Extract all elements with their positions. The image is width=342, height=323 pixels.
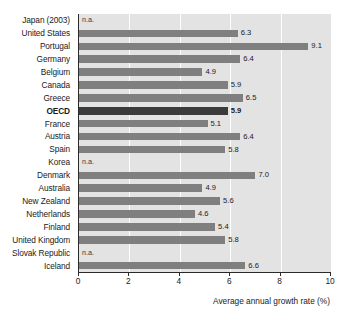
- category-label: United Kingdom: [0, 233, 74, 246]
- bar-row: n.a.: [79, 246, 331, 259]
- bar-value-label: 5.9: [231, 81, 242, 89]
- bar-value-label: 9.1: [311, 42, 322, 50]
- x-tick-label: 10: [325, 277, 334, 285]
- bar-rows: n.a.6.39.16.44.95.96.55.95.16.45.8n.a.7.…: [79, 14, 331, 272]
- bar-row: 5.8: [79, 143, 331, 156]
- bar-row: 5.9: [79, 79, 331, 92]
- not-available-label: n.a.: [82, 159, 94, 166]
- bar-row: 6.5: [79, 91, 331, 104]
- x-tick-mark: [330, 272, 331, 276]
- x-axis-title: Average annual growth rate (%): [213, 297, 330, 305]
- bar-value-label: 4.9: [205, 68, 216, 76]
- x-tick-label: 0: [76, 277, 81, 285]
- category-label: Greece: [0, 91, 74, 104]
- category-label: Portugal: [0, 40, 74, 53]
- bar: 6.3: [79, 30, 238, 38]
- bar-row: 4.6: [79, 208, 331, 221]
- category-label: Denmark: [0, 169, 74, 182]
- bar: 4.9: [79, 68, 202, 76]
- bar-value-label: 6.6: [248, 262, 259, 270]
- bar-row: 6.4: [79, 53, 331, 66]
- bar: 4.9: [79, 184, 202, 192]
- category-label: Germany: [0, 53, 74, 66]
- bar-row: 6.6: [79, 259, 331, 272]
- bar-value-label: 4.6: [198, 210, 209, 218]
- x-tick-label: 8: [277, 277, 282, 285]
- bar-value-label: 4.9: [205, 184, 216, 192]
- bar-value-label: 5.8: [228, 146, 239, 154]
- category-label: Finland: [0, 221, 74, 234]
- x-tick-mark: [280, 272, 281, 276]
- x-tick-mark: [128, 272, 129, 276]
- category-label: Spain: [0, 143, 74, 156]
- x-tick-mark: [229, 272, 230, 276]
- bar: 6.4: [79, 55, 240, 63]
- plot-area: n.a.6.39.16.44.95.96.55.95.16.45.8n.a.7.…: [78, 14, 331, 272]
- bar-row: 5.8: [79, 233, 331, 246]
- bar: 5.6: [79, 197, 220, 205]
- bar-row: 5.1: [79, 117, 331, 130]
- category-label: Austria: [0, 130, 74, 143]
- bar-value-label: 5.4: [218, 223, 229, 231]
- bar-value-label: 5.6: [223, 197, 234, 205]
- bar-value-label: 5.1: [211, 120, 222, 128]
- bar: 5.8: [79, 236, 225, 244]
- category-label: Japan (2003): [0, 14, 74, 27]
- bar: 9.1: [79, 43, 308, 51]
- bar: 6.4: [79, 133, 240, 141]
- category-label: Korea: [0, 156, 74, 169]
- bar: 6.5: [79, 94, 243, 102]
- bar-chart: Japan (2003)United StatesPortugalGermany…: [0, 0, 342, 323]
- bar-row: 5.6: [79, 195, 331, 208]
- gridline: [331, 14, 332, 272]
- bar: 5.9: [79, 81, 228, 89]
- bar: 4.6: [79, 210, 195, 218]
- bar: 5.4: [79, 223, 215, 231]
- category-label: France: [0, 117, 74, 130]
- category-label: OECD: [0, 104, 74, 117]
- not-available-label: n.a.: [82, 17, 94, 24]
- category-label: Canada: [0, 79, 74, 92]
- x-tick-label: 4: [176, 277, 181, 285]
- bar-value-label: 5.9: [231, 107, 242, 115]
- bar-value-label: 5.8: [228, 236, 239, 244]
- bar-value-label: 6.3: [241, 30, 252, 38]
- category-label: Netherlands: [0, 208, 74, 221]
- category-label: United States: [0, 27, 74, 40]
- bar: 5.9: [79, 107, 228, 115]
- x-tick-label: 2: [126, 277, 131, 285]
- bar-value-label: 6.4: [243, 55, 254, 63]
- bar-row: 4.9: [79, 182, 331, 195]
- bar: 5.1: [79, 120, 208, 128]
- bar-value-label: 6.4: [243, 133, 254, 141]
- bar-row: 5.4: [79, 221, 331, 234]
- bar-row: 4.9: [79, 66, 331, 79]
- not-available-label: n.a.: [82, 249, 94, 256]
- category-label: Australia: [0, 182, 74, 195]
- category-label: Slovak Republic: [0, 246, 74, 259]
- bar-row: n.a.: [79, 14, 331, 27]
- bar-row: n.a.: [79, 156, 331, 169]
- bar-row: 7.0: [79, 169, 331, 182]
- bar: 6.6: [79, 262, 245, 270]
- category-label-column: Japan (2003)United StatesPortugalGermany…: [0, 14, 74, 272]
- x-tick-label: 6: [227, 277, 232, 285]
- bar-value-label: 6.5: [246, 94, 257, 102]
- bar-row: 9.1: [79, 40, 331, 53]
- bar-row: 6.4: [79, 130, 331, 143]
- x-tick-mark: [78, 272, 79, 276]
- bar-row: 5.9: [79, 104, 331, 117]
- bar: 7.0: [79, 172, 255, 180]
- bar: 5.8: [79, 146, 225, 154]
- category-label: Belgium: [0, 66, 74, 79]
- x-tick-mark: [179, 272, 180, 276]
- category-label: New Zealand: [0, 195, 74, 208]
- bar-value-label: 7.0: [258, 172, 269, 180]
- category-label: Iceland: [0, 259, 74, 272]
- bar-row: 6.3: [79, 27, 331, 40]
- x-axis-ticks: 0246810: [78, 272, 330, 290]
